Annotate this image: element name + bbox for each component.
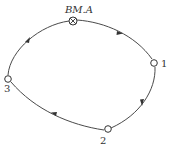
point-1-marker: [151, 60, 158, 67]
point-3-marker: [5, 76, 12, 83]
segment-1-to-2: [111, 67, 155, 128]
point-2-label: 2: [100, 135, 106, 146]
benchmark-bma: [69, 17, 77, 25]
leveling-route-diagram: BM.A 1 2 3: [0, 0, 169, 150]
segment-bma-to-1: [77, 20, 152, 59]
arrow-icon-3-to-bma: [25, 37, 30, 43]
segment-2-to-3: [11, 82, 104, 130]
point-1-label: 1: [161, 58, 167, 69]
point-3-label: 3: [4, 83, 10, 94]
point-2-marker: [105, 126, 112, 133]
benchmark-label: BM.A: [64, 4, 93, 15]
segment-3-to-bma: [8, 21, 69, 75]
